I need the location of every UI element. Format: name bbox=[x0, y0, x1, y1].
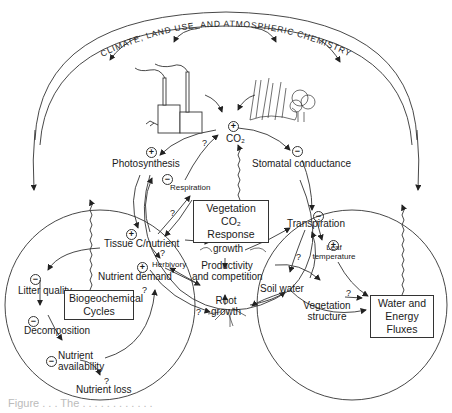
title-arc-text: CLIMATE, LAND USE, AND ATMOSPHERIC CHEMI… bbox=[99, 18, 353, 58]
question-mark: ? bbox=[170, 208, 175, 218]
node-nutrient-demand: Nutrient demand bbox=[98, 271, 172, 282]
nutrient-avail-line-2: availability bbox=[58, 361, 104, 372]
plus-sign-tissue: + bbox=[126, 229, 137, 240]
minus-sign-nutrient-avail: − bbox=[46, 356, 57, 367]
node-photosynthesis: Photosynthesis bbox=[112, 158, 180, 169]
box-biogeochemical-cycles: Biogeochemical Cycles bbox=[64, 290, 134, 320]
node-root-growth: Root growth bbox=[210, 295, 242, 317]
question-mark: ? bbox=[104, 376, 109, 386]
node-nutrient-availability: Nutrient availability bbox=[58, 350, 104, 372]
figure-caption-clipped: Figure . . . The . . . . . . . . . . . . bbox=[8, 397, 153, 409]
factory-illustration bbox=[135, 64, 202, 133]
root-line-1: Root bbox=[210, 295, 242, 306]
water-line-2: Energy Fluxes bbox=[375, 310, 429, 336]
root-line-2: growth bbox=[210, 306, 242, 317]
leaf-line-2: temperature bbox=[312, 252, 356, 261]
question-mark: ? bbox=[196, 307, 201, 317]
biogeo-line-1: Biogeochemical bbox=[69, 292, 129, 305]
plus-sign-co2: + bbox=[228, 121, 239, 132]
ecosystem-feedback-diagram: CLIMATE, LAND USE, AND ATMOSPHERIC CHEMI… bbox=[0, 0, 452, 413]
node-vegetation-structure: Vegetation structure bbox=[302, 300, 352, 322]
node-respiration: Respiration bbox=[170, 183, 210, 192]
biogeo-line-2: Cycles bbox=[69, 305, 129, 318]
wavy-up-right bbox=[402, 205, 404, 295]
minus-sign-transpiration: − bbox=[313, 211, 324, 222]
water-line-1: Water and bbox=[375, 297, 429, 310]
box-water-energy-fluxes: Water and Energy Fluxes bbox=[370, 295, 434, 338]
shoot-line-2: growth bbox=[212, 243, 244, 254]
node-co2: CO₂ bbox=[226, 133, 245, 144]
question-mark: ? bbox=[296, 252, 301, 262]
co2-to-stomatal bbox=[238, 128, 290, 150]
node-tissue-cn: Tissue C/nutrient bbox=[104, 238, 179, 249]
question-mark: ? bbox=[346, 288, 351, 298]
productivity-line-1: Productivity bbox=[192, 260, 262, 271]
node-herbivory: Herbivory bbox=[152, 260, 186, 269]
forest-illustration bbox=[250, 78, 315, 122]
question-mark: ? bbox=[160, 248, 165, 258]
minus-sign-stomatal: − bbox=[292, 146, 303, 157]
veg-co2-line-1: Vegetation bbox=[198, 202, 264, 215]
outer-arc-lower bbox=[40, 26, 412, 145]
nutrient-avail-line-1: Nutrient bbox=[58, 350, 104, 361]
veg-co2-line-2: CO₂ Response bbox=[198, 215, 264, 241]
minus-sign-litter: − bbox=[30, 274, 41, 285]
plus-sign-photosynthesis: + bbox=[146, 147, 157, 158]
veg-structure-line-1: Vegetation bbox=[302, 300, 352, 311]
outer-arc-upper bbox=[35, 12, 417, 140]
co2-to-photosynthesis bbox=[160, 130, 216, 155]
question-mark: ? bbox=[202, 138, 207, 148]
node-soil-water: Soil water bbox=[260, 283, 304, 294]
productivity-line-2: and competition bbox=[192, 271, 262, 282]
plus-sign-nutrient-demand: + bbox=[137, 262, 148, 273]
plus-sign-leaf-temp: + bbox=[328, 240, 339, 251]
minus-sign-decomposition: − bbox=[28, 316, 39, 327]
tissue-to-litter bbox=[48, 248, 100, 270]
veg-structure-line-2: structure bbox=[302, 311, 352, 322]
minus-sign-respiration: − bbox=[162, 174, 173, 185]
box-vegetation-co2-response: Vegetation CO₂ Response bbox=[193, 200, 269, 243]
question-mark: ? bbox=[142, 285, 147, 295]
node-stomatal-conductance: Stomatal conductance bbox=[252, 158, 351, 169]
node-productivity: Productivity and competition bbox=[192, 260, 262, 282]
